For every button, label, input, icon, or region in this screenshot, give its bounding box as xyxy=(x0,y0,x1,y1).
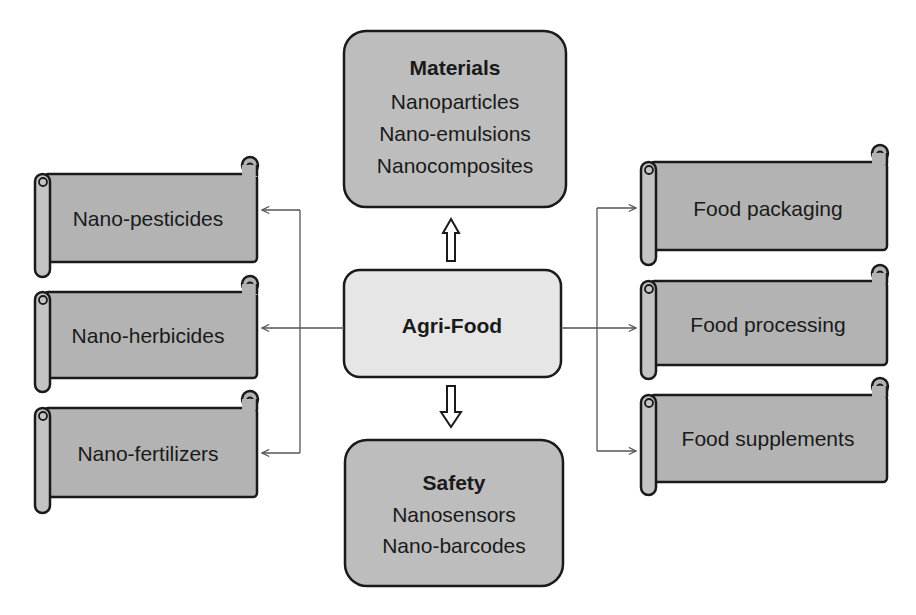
scroll-label: Food packaging xyxy=(693,197,842,220)
scroll-label: Nano-herbicides xyxy=(72,324,225,347)
materials-item: Nanoparticles xyxy=(391,90,519,113)
safety-item: Nano-barcodes xyxy=(382,534,526,557)
materials-box: Materials Nanoparticles Nano-emulsions N… xyxy=(344,31,566,207)
agri-food-box: Agri-Food xyxy=(344,270,561,377)
down-block-arrow-icon xyxy=(441,386,461,427)
up-block-arrow-icon xyxy=(443,219,459,261)
scroll-food-supplements: Food supplements xyxy=(641,378,888,495)
scroll-nano-pesticides: Nano-pesticides xyxy=(35,157,258,277)
scroll-food-packaging: Food packaging xyxy=(641,145,888,265)
safety-box: Safety Nanosensors Nano-barcodes xyxy=(345,440,563,586)
safety-item: Nanosensors xyxy=(392,503,516,526)
scroll-label: Nano-pesticides xyxy=(73,207,224,230)
safety-title: Safety xyxy=(422,471,485,494)
materials-title: Materials xyxy=(409,56,500,79)
agri-food-label: Agri-Food xyxy=(402,314,502,337)
left-connector xyxy=(262,210,344,453)
materials-item: Nano-emulsions xyxy=(379,122,531,145)
scroll-nano-fertilizers: Nano-fertilizers xyxy=(35,391,258,513)
scroll-label: Food processing xyxy=(690,313,845,336)
materials-item: Nanocomposites xyxy=(377,154,533,177)
diagram-canvas: Materials Nanoparticles Nano-emulsions N… xyxy=(0,0,916,615)
scroll-nano-herbicides: Nano-herbicides xyxy=(35,276,258,392)
right-connector xyxy=(561,208,636,451)
scroll-label: Food supplements xyxy=(682,427,855,450)
scroll-food-processing: Food processing xyxy=(641,265,888,379)
scroll-label: Nano-fertilizers xyxy=(77,442,218,465)
